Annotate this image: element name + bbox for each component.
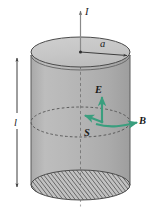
cylinder-poynting-diagram: I a l E B S: [0, 0, 153, 211]
current-label: I: [84, 6, 89, 17]
electric-field-label: E: [94, 84, 102, 95]
figure-container: I a l E B S: [0, 0, 153, 211]
vector-origin-dot: [101, 121, 104, 124]
length-label: l: [14, 117, 17, 128]
radius-label: a: [100, 38, 105, 49]
poynting-vector-label: S: [84, 127, 90, 138]
magnetic-field-label: B: [138, 115, 146, 126]
length-label-backdrop: [11, 113, 23, 129]
